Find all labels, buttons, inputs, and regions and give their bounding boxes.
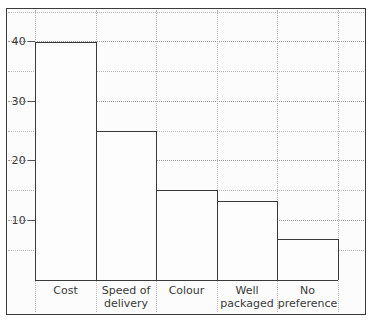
- ytick-dash-20: [28, 160, 35, 161]
- ytick-dash-30: [28, 101, 35, 102]
- category-label-well-packaged: Well packaged: [217, 281, 277, 317]
- bar-well-packaged: [217, 201, 278, 280]
- category-label-cost: Cost: [35, 281, 96, 317]
- ytick-dash-40: [28, 41, 35, 42]
- ytick-label-40: 40: [0, 35, 26, 48]
- category-label-speed-of-delivery: Speed of delivery: [96, 281, 156, 317]
- category-label-no-preference: No preference: [277, 281, 338, 317]
- bar-colour: [156, 190, 218, 280]
- bar-chart-figure: 40 30 20 10 Cost Speed of delivery Colou…: [0, 0, 373, 324]
- category-label-colour: Colour: [156, 281, 217, 317]
- category-label-strip: Cost Speed of delivery Colour Well packa…: [8, 281, 364, 314]
- bar-cost: [35, 42, 97, 280]
- ytick-dash-10: [28, 220, 35, 221]
- ytick-label-20: 20: [0, 154, 26, 167]
- ytick-label-10: 10: [0, 214, 26, 227]
- plot-area: 40 30 20 10 Cost Speed of delivery Colou…: [0, 0, 373, 324]
- gridline-y-45: [8, 12, 364, 13]
- bar-no-preference: [277, 239, 339, 280]
- ytick-label-30: 30: [0, 95, 26, 108]
- bar-speed-of-delivery: [96, 131, 157, 280]
